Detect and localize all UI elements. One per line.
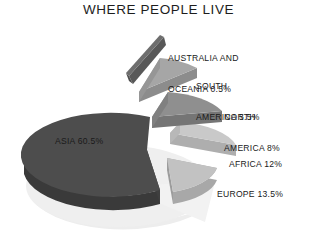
pie-label-south-america-line1: SOUTH bbox=[196, 81, 260, 91]
pie-label-asia-line1: ASIA 60.5% bbox=[55, 136, 103, 146]
pie-chart-figure: WHERE PEOPLE LIVE bbox=[0, 0, 317, 245]
pie-label-north-america-line1: NORTH bbox=[224, 112, 280, 122]
pie-label-europe-line1: EUROPE 13.5% bbox=[217, 189, 283, 199]
pie-label-europe: EUROPE 13.5% bbox=[217, 169, 283, 220]
pie-label-asia: ASIA 60.5% bbox=[55, 116, 103, 167]
